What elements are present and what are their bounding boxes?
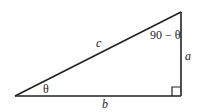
right-triangle-diagram: c a b θ 90 − θ bbox=[0, 0, 199, 112]
side-c-hypotenuse bbox=[15, 12, 181, 96]
label-a: a bbox=[185, 49, 191, 63]
label-c: c bbox=[96, 36, 102, 50]
label-ninety-minus-theta: 90 − θ bbox=[150, 28, 181, 42]
right-angle-marker bbox=[172, 87, 181, 96]
triangle-canvas: c a b θ 90 − θ bbox=[0, 0, 199, 112]
label-b: b bbox=[102, 97, 108, 111]
label-theta: θ bbox=[43, 82, 49, 96]
